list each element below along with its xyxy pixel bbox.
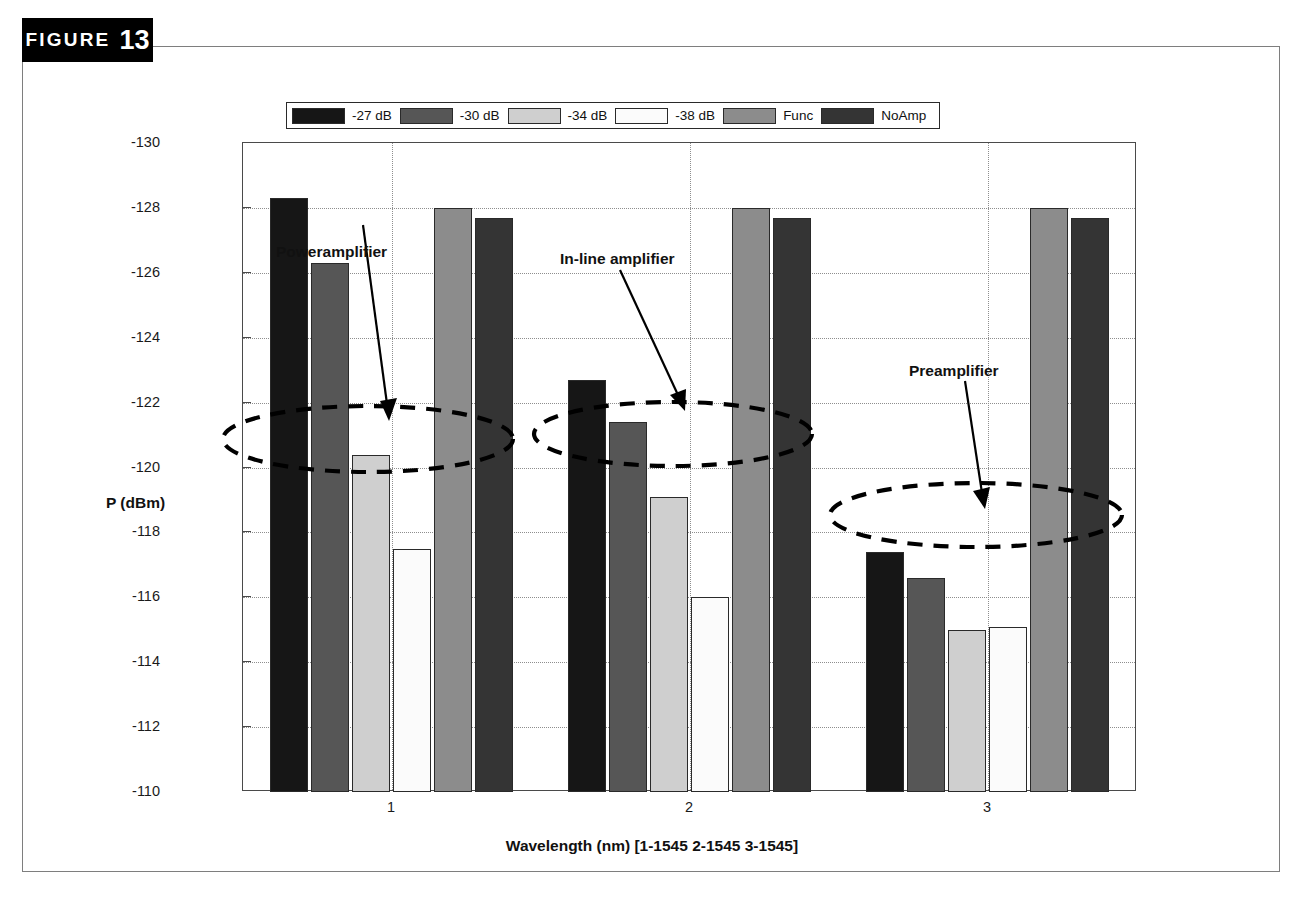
legend-swatch <box>723 108 776 124</box>
bar <box>650 497 688 792</box>
y-tick-label: -126 <box>131 264 160 280</box>
bar <box>989 627 1027 792</box>
legend-swatch <box>615 108 668 124</box>
bar <box>270 198 308 792</box>
bar <box>393 549 431 792</box>
x-tick-label: 1 <box>387 799 395 815</box>
bar <box>732 208 770 792</box>
y-tick-label: -124 <box>131 329 160 345</box>
gridline-horizontal <box>243 273 1135 274</box>
legend-label: -27 dB <box>352 108 392 123</box>
legend-label: -38 dB <box>675 108 715 123</box>
chart-legend: -27 dB-30 dB-34 dB-38 dBFuncNoAmp <box>286 102 940 129</box>
legend-label: NoAmp <box>881 108 926 123</box>
bar <box>434 208 472 792</box>
legend-item[interactable]: Func <box>723 108 813 124</box>
bar <box>948 630 986 792</box>
annotation-label-poweramplifier: Poweramplifier <box>276 243 387 261</box>
y-tick-label: -114 <box>132 653 160 669</box>
gridline-horizontal <box>243 338 1135 339</box>
bar <box>609 422 647 792</box>
legend-label: -34 dB <box>568 108 608 123</box>
bar <box>691 597 729 792</box>
annotation-label-preamplifier: Preamplifier <box>909 362 999 380</box>
y-tick-label: -120 <box>131 459 160 475</box>
figure-page: FIGURE 13 Comparsion of phase noise ener… <box>0 0 1304 909</box>
y-tick-label: -128 <box>131 199 160 215</box>
figure-number: 13 <box>119 25 149 56</box>
bar <box>1030 208 1068 792</box>
y-tick-label: -122 <box>131 394 160 410</box>
legend-item[interactable]: -30 dB <box>400 108 500 124</box>
legend-swatch <box>821 108 874 124</box>
figure-frame: Comparsion of phase noise energies for P… <box>22 46 1280 872</box>
legend-label: -30 dB <box>460 108 500 123</box>
bar <box>352 455 390 792</box>
bar <box>475 218 513 792</box>
y-tick-label: -110 <box>132 783 160 799</box>
figure-label: FIGURE <box>25 29 110 51</box>
x-tick-label: 3 <box>983 799 991 815</box>
legend-item[interactable]: NoAmp <box>821 108 926 124</box>
y-tick-label: -112 <box>132 718 160 734</box>
bar <box>907 578 945 792</box>
bar <box>568 380 606 792</box>
bar <box>311 263 349 792</box>
x-axis-label: Wavelength (nm) [1-1545 2-1545 3-1545] <box>23 837 1281 855</box>
y-axis-label: P (dBm) <box>106 494 165 512</box>
legend-item[interactable]: -34 dB <box>508 108 608 124</box>
bar-chart: Comparsion of phase noise energies for P… <box>23 47 1281 873</box>
legend-item[interactable]: -27 dB <box>292 108 392 124</box>
bar <box>866 552 904 792</box>
legend-swatch <box>400 108 453 124</box>
gridline-horizontal <box>243 403 1135 404</box>
y-tick-label: -116 <box>132 588 160 604</box>
plot-area <box>242 142 1136 791</box>
legend-swatch <box>508 108 561 124</box>
legend-swatch <box>292 108 345 124</box>
annotation-label-inline-amplifier: In-line amplifier <box>560 250 675 268</box>
gridline-horizontal <box>243 208 1135 209</box>
legend-label: Func <box>783 108 813 123</box>
y-tick-label: -118 <box>132 523 160 539</box>
figure-badge: FIGURE 13 <box>22 18 153 62</box>
x-tick-label: 2 <box>685 799 693 815</box>
legend-item[interactable]: -38 dB <box>615 108 715 124</box>
y-tick-label: -130 <box>131 134 160 150</box>
bar <box>773 218 811 792</box>
bar <box>1071 218 1109 792</box>
